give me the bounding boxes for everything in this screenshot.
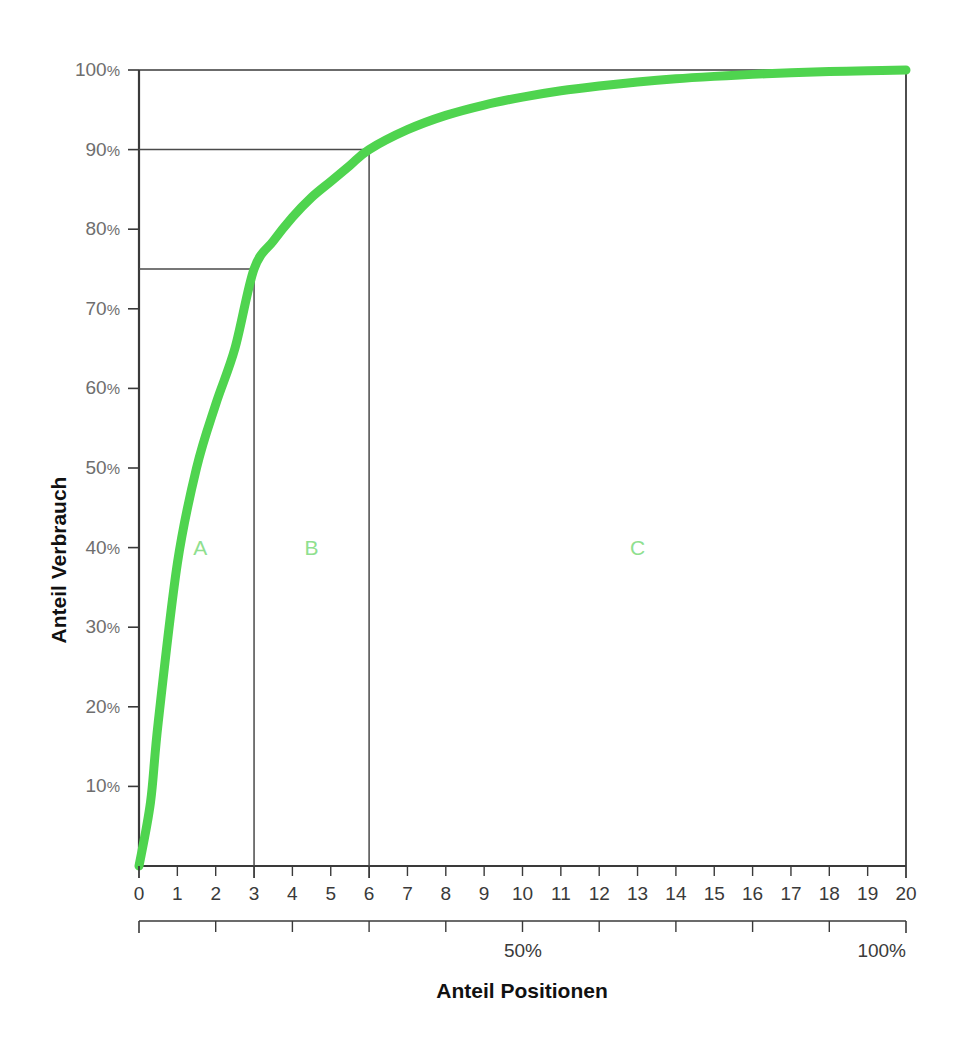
x-tick-label-0: 0: [134, 883, 145, 904]
y-tick-label-40: 40%: [86, 537, 120, 558]
x-tick-label-12: 12: [589, 883, 610, 904]
x-axis-title: Anteil Positionen: [436, 979, 608, 1002]
y-tick-label-10: 10%: [86, 775, 120, 796]
x-tick-label-18: 18: [819, 883, 840, 904]
x-tick-label-1: 1: [172, 883, 183, 904]
secondary-label-100: 100%: [857, 940, 906, 961]
x-tick-label-2: 2: [210, 883, 221, 904]
y-tick-label-30: 30%: [86, 616, 120, 637]
zone-c-label: C: [630, 536, 645, 559]
x-tick-label-8: 8: [441, 883, 452, 904]
x-tick-label-17: 17: [780, 883, 801, 904]
y-tick-label-20: 20%: [86, 696, 120, 717]
y-tick-label-50: 50%: [86, 457, 120, 478]
y-axis-title: Anteil Verbrauch: [47, 477, 70, 644]
secondary-label-50: 50%: [504, 940, 542, 961]
x-tick-label-13: 13: [627, 883, 648, 904]
y-tick-label-100: 100%: [75, 59, 120, 80]
x-tick-label-11: 11: [551, 883, 571, 904]
x-axis-tick-labels: 01234567891011121314151617181920: [134, 883, 917, 904]
pareto-abc-chart: 10%20%30%40%50%60%70%80%90%100% ABC 0123…: [0, 0, 972, 1038]
x-tick-label-16: 16: [742, 883, 763, 904]
x-tick-label-5: 5: [325, 883, 336, 904]
x-tick-label-7: 7: [402, 883, 413, 904]
y-tick-label-80: 80%: [86, 218, 120, 239]
y-tick-label-60: 60%: [86, 377, 120, 398]
x-tick-label-10: 10: [512, 883, 533, 904]
y-tick-label-90: 90%: [86, 139, 120, 160]
zone-a-label: A: [193, 536, 207, 559]
x-tick-label-15: 15: [704, 883, 725, 904]
y-tick-label-70: 70%: [86, 298, 120, 319]
x-tick-label-14: 14: [665, 883, 687, 904]
x-tick-label-9: 9: [479, 883, 490, 904]
x-tick-label-20: 20: [895, 883, 916, 904]
x-tick-label-3: 3: [249, 883, 260, 904]
x-tick-label-19: 19: [857, 883, 878, 904]
zone-b-label: B: [305, 536, 319, 559]
x-tick-label-4: 4: [287, 883, 298, 904]
chart-canvas: 10%20%30%40%50%60%70%80%90%100% ABC 0123…: [0, 0, 972, 1038]
x-tick-label-6: 6: [364, 883, 375, 904]
